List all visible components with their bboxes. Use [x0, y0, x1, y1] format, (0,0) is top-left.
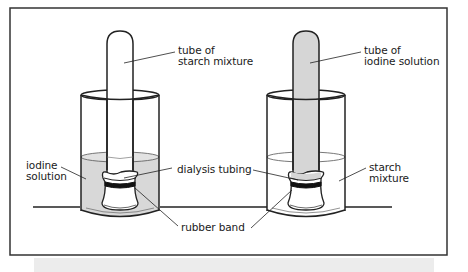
label-line: starch mixture	[178, 56, 253, 67]
diagram-canvas: tube of starch mixture tube of iodine so…	[0, 0, 468, 272]
label-rubber-band: rubber band	[181, 222, 245, 233]
leader-band-right	[251, 190, 292, 228]
label-tube-iodine: tube of iodine solution	[364, 45, 439, 67]
label-line: mixture	[369, 173, 409, 184]
label-iodine-solution: iodine solution	[26, 160, 67, 182]
label-dialysis-tubing: dialysis tubing	[177, 164, 252, 175]
right-setup	[267, 31, 345, 217]
leader-beaker-right	[339, 168, 366, 181]
left-dialysis-sack	[102, 171, 138, 210]
label-line: solution	[26, 171, 67, 182]
label-tube-starch: tube of starch mixture	[178, 45, 253, 67]
left-setup	[81, 31, 159, 217]
left-inner-tube	[107, 31, 133, 175]
diagram-frame	[10, 8, 457, 128]
label-starch-mixture: starch mixture	[369, 162, 409, 184]
right-inner-tube	[293, 31, 319, 175]
label-line: iodine solution	[364, 56, 439, 67]
bottom-shadow-strip	[34, 258, 434, 272]
